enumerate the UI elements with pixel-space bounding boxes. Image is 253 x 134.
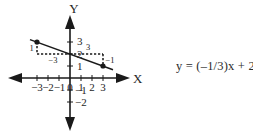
slope-drop-label-right: −1 [105, 55, 114, 65]
x-tick-label-3: 3 [100, 81, 106, 93]
data-point--3-3 [34, 39, 39, 44]
y-tick-label-2: 2 [77, 48, 83, 60]
y-axis-arrow-up-icon [65, 15, 75, 29]
slope-run-label-right: 3 [86, 42, 90, 52]
x-tick-label-2: 2 [89, 81, 95, 93]
x-tick-label--2: −2 [42, 81, 54, 93]
y-tick-label--1: −1 [75, 84, 87, 96]
y-tick-label--2: −2 [75, 96, 87, 108]
y-tick-label-3: 3 [77, 35, 83, 47]
x-axis-arrow-right-icon [116, 73, 130, 83]
x-axis-arrow-left-icon [8, 73, 22, 83]
x-axis-name-label: X [133, 71, 143, 86]
graph-figure: Y X −3 −2 −1 1 2 3 0 3 2 1 −1 −2 1 −3 3 … [0, 0, 253, 134]
equation-label: y = (–1/3)x + 2 [176, 59, 253, 74]
slope-rise-label-left: 1 [29, 43, 33, 53]
origin-label: 0 [67, 81, 73, 93]
slope-run-label-left: −3 [48, 55, 57, 65]
y-axis-arrow-down-icon [65, 117, 75, 131]
y-tick-label-1: 1 [77, 60, 83, 72]
x-tick-label--1: −1 [54, 81, 66, 93]
axis-group [8, 15, 130, 131]
y-axis-name-label: Y [69, 1, 79, 16]
